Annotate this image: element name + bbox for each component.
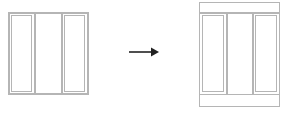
diagram-svg bbox=[0, 0, 285, 115]
after-window bbox=[200, 3, 280, 107]
before-inner-frame bbox=[10, 14, 88, 94]
before-left-sash bbox=[12, 16, 32, 92]
before-right-sash bbox=[65, 16, 85, 92]
diagram-canvas bbox=[0, 0, 285, 115]
after-left-sash bbox=[203, 16, 224, 92]
before-outer-frame bbox=[9, 13, 89, 95]
after-outer-frame bbox=[200, 3, 280, 107]
after-right-sash bbox=[256, 16, 277, 92]
before-window bbox=[9, 13, 89, 95]
arrow-head-icon bbox=[151, 48, 159, 57]
transition-arrow bbox=[129, 48, 159, 57]
